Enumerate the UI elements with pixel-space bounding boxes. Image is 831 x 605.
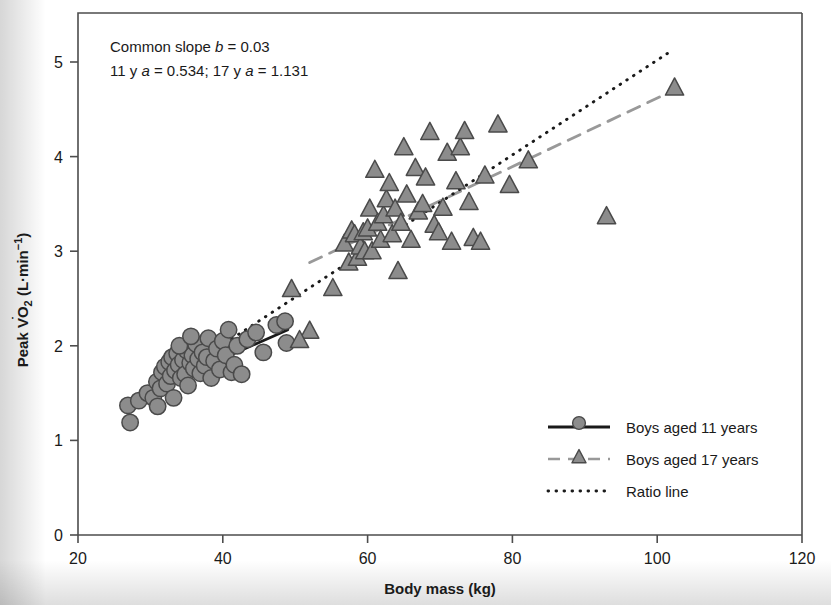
ylab-prefix: Peak bbox=[14, 328, 31, 367]
data-point-circle bbox=[122, 414, 138, 430]
data-point-circle bbox=[255, 344, 271, 360]
y-tick-label-3: 3 bbox=[54, 243, 63, 260]
data-point-circle bbox=[277, 313, 293, 329]
legend-label-1: Boys aged 17 years bbox=[626, 451, 759, 468]
data-point-circle bbox=[149, 398, 165, 414]
ylab-units-open: (L·min bbox=[14, 250, 31, 300]
x-tick-label-120: 120 bbox=[789, 550, 816, 567]
annot2-italic-a: a bbox=[141, 62, 149, 79]
y-axis-title-text: Peak V̇O2 (L·min−1) bbox=[11, 233, 34, 368]
x-axis-title: Body mass (kg) bbox=[384, 580, 496, 597]
y-axis-title: Peak V̇O2 (L·min−1) bbox=[11, 233, 34, 368]
annot1-post: = 0.03 bbox=[223, 38, 269, 55]
annot1-pre: Common slope bbox=[110, 38, 215, 55]
annot2-mid: = 0.534; 17 y bbox=[150, 62, 246, 79]
x-tick-label-40: 40 bbox=[214, 550, 232, 567]
ylab-o: O bbox=[14, 306, 31, 318]
y-tick-label-1: 1 bbox=[54, 432, 63, 449]
legend-label-0: Boys aged 11 years bbox=[626, 419, 757, 436]
ylab-sup: −1 bbox=[12, 238, 24, 251]
x-tick-label-20: 20 bbox=[69, 550, 87, 567]
ylab-vdot: V bbox=[14, 318, 31, 328]
annotation-line-2: 11 y a = 0.534; 17 y a = 1.131 bbox=[110, 62, 308, 79]
legend-marker-circle bbox=[573, 417, 586, 430]
figure-background bbox=[0, 0, 831, 605]
annotation-line-1: Common slope b = 0.03 bbox=[110, 38, 270, 55]
y-tick-label-5: 5 bbox=[54, 54, 63, 71]
legend-label-2: Ratio line bbox=[626, 483, 689, 500]
y-tick-label-4: 4 bbox=[54, 149, 63, 166]
data-point-circle bbox=[183, 328, 199, 344]
peak-vo2-vs-body-mass-scatter-chart: 20406080100120012345 Common slope b = 0.… bbox=[0, 0, 831, 605]
data-point-circle bbox=[233, 366, 249, 382]
data-point-circle bbox=[248, 324, 264, 340]
data-point-circle bbox=[165, 390, 181, 406]
data-point-circle bbox=[220, 322, 236, 338]
annot2-post: = 1.131 bbox=[254, 62, 309, 79]
ylab-units-close: ) bbox=[14, 233, 31, 238]
data-point-circle bbox=[180, 377, 196, 393]
x-tick-label-80: 80 bbox=[504, 550, 522, 567]
annot1-italic: b bbox=[215, 38, 223, 55]
y-tick-label-0: 0 bbox=[54, 527, 63, 544]
y-tick-label-2: 2 bbox=[54, 338, 63, 355]
annot2-pre: 11 y bbox=[110, 62, 141, 79]
x-tick-label-60: 60 bbox=[359, 550, 377, 567]
x-tick-label-100: 100 bbox=[644, 550, 671, 567]
annot2-italic-a2: a bbox=[245, 62, 253, 79]
